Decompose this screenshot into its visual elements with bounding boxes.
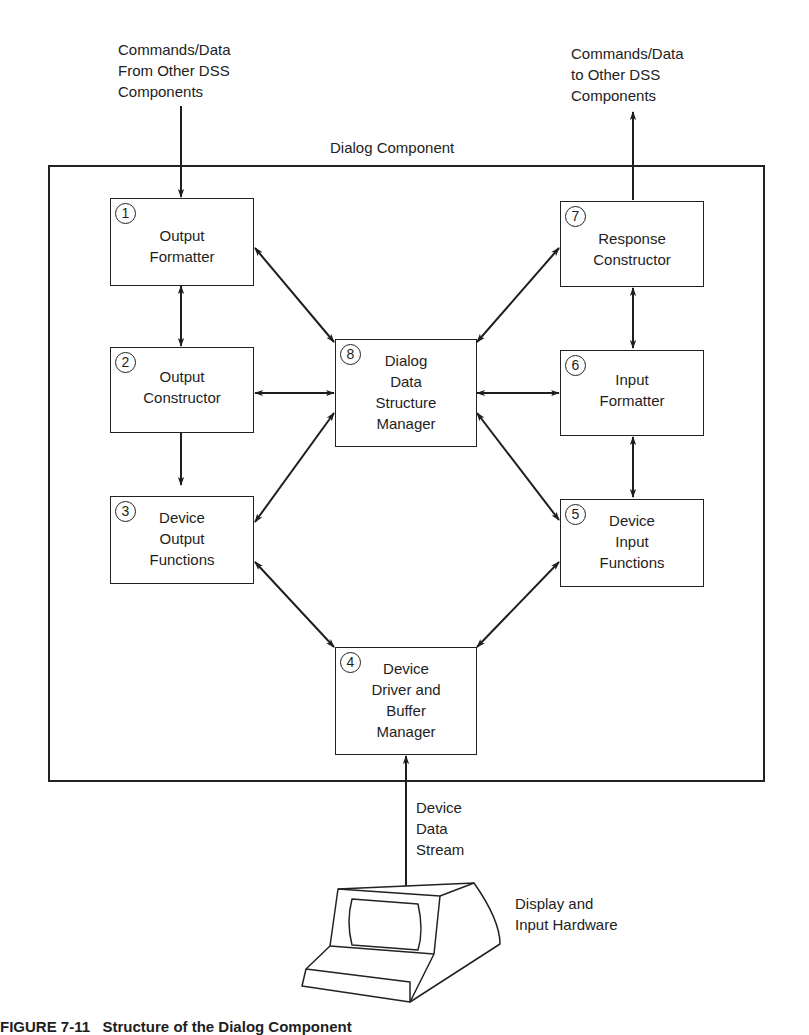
external-input-label-line: Commands/Data <box>118 39 231 60</box>
external-output-label-line: Commands/Data <box>571 43 684 64</box>
box-title-line: Output <box>111 528 253 549</box>
box-title-line: Output <box>111 225 253 246</box>
device-data-stream-label-line: Stream <box>416 839 464 860</box>
box-title-line: Device <box>561 510 703 531</box>
box-output-formatter[interactable]: 1 Output Formatter <box>110 198 254 286</box>
box-title: Response Constructor <box>561 228 703 270</box>
box-response-constructor[interactable]: 7 Response Constructor <box>560 201 704 287</box>
terminal-icon <box>302 883 500 1002</box>
external-input-label: Commands/Data From Other DSS Components <box>118 39 231 102</box>
box-title-line: Driver and <box>336 679 476 700</box>
box-title-line: Dialog <box>336 350 476 371</box>
external-output-label-line: Components <box>571 85 684 106</box>
device-data-stream-label-line: Device <box>416 797 464 818</box>
box-device-output-functions[interactable]: 3 Device Output Functions <box>110 496 254 584</box>
box-device-input-functions[interactable]: 5 Device Input Functions <box>560 499 704 587</box>
external-output-label-line: to Other DSS <box>571 64 684 85</box>
box-title: Device Driver and Buffer Manager <box>336 658 476 742</box>
box-title-line: Data <box>336 371 476 392</box>
box-dialog-data-structure-manager[interactable]: 8 Dialog Data Structure Manager <box>335 339 477 447</box>
box-title-line: Functions <box>111 549 253 570</box>
box-title-line: Structure <box>336 392 476 413</box>
box-number-badge: 1 <box>115 203 136 224</box>
box-title-line: Device <box>111 507 253 528</box>
box-output-constructor[interactable]: 2 Output Constructor <box>110 347 254 433</box>
box-title: Dialog Data Structure Manager <box>336 350 476 434</box>
box-title-line: Buffer <box>336 700 476 721</box>
box-title-line: Functions <box>561 552 703 573</box>
external-input-label-line: Components <box>118 81 231 102</box>
external-input-label-line: From Other DSS <box>118 60 231 81</box>
box-title-line: Constructor <box>561 249 703 270</box>
hardware-label-line: Input Hardware <box>515 914 618 935</box>
container-label: Dialog Component <box>330 137 454 158</box>
hardware-label-line: Display and <box>515 893 618 914</box>
box-number-badge: 7 <box>565 206 586 227</box>
figure-caption: FIGURE 7-11 Structure of the Dialog Comp… <box>0 1018 352 1035</box>
box-title-line: Formatter <box>111 246 253 267</box>
box-title: Device Input Functions <box>561 510 703 573</box>
box-title-line: Response <box>561 228 703 249</box>
box-title-line: Manager <box>336 721 476 742</box>
box-title: Output Constructor <box>111 366 253 408</box>
box-title-line: Input <box>561 531 703 552</box>
box-title: Output Formatter <box>111 225 253 267</box>
box-title-line: Constructor <box>111 387 253 408</box>
external-output-label: Commands/Data to Other DSS Components <box>571 43 684 106</box>
box-input-formatter[interactable]: 6 Input Formatter <box>560 350 704 436</box>
box-title-line: Formatter <box>561 390 703 411</box>
box-title-line: Device <box>336 658 476 679</box>
box-device-driver-buffer-manager[interactable]: 4 Device Driver and Buffer Manager <box>335 647 477 755</box>
box-title-line: Input <box>561 369 703 390</box>
hardware-label: Display and Input Hardware <box>515 893 618 935</box>
box-title-line: Output <box>111 366 253 387</box>
device-data-stream-label-line: Data <box>416 818 464 839</box>
device-data-stream-label: Device Data Stream <box>416 797 464 860</box>
box-title: Input Formatter <box>561 369 703 411</box>
box-title: Device Output Functions <box>111 507 253 570</box>
box-title-line: Manager <box>336 413 476 434</box>
